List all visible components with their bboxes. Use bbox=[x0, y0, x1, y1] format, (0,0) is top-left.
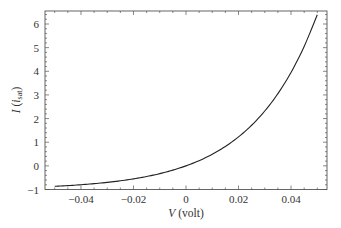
x-tick-label: 0.02 bbox=[229, 193, 248, 205]
data-line bbox=[55, 15, 318, 187]
y-tick-label: 6 bbox=[34, 18, 40, 30]
y-tick-label: 4 bbox=[34, 65, 40, 77]
y-axis-label: I (isat) bbox=[10, 87, 24, 115]
y-tick-label: 0 bbox=[34, 160, 40, 172]
y-tick-label: −1 bbox=[27, 184, 39, 196]
plot-border bbox=[45, 11, 327, 190]
x-axis-tick-labels: −0.04−0.0200.020.04 bbox=[68, 193, 301, 205]
x-axis-label: V (volt) bbox=[168, 207, 204, 220]
x-tick-label: 0.04 bbox=[281, 193, 301, 205]
y-tick-label: 5 bbox=[34, 42, 40, 54]
x-axis-label-unit: (volt) bbox=[175, 207, 204, 220]
y-axis-ticks bbox=[45, 15, 327, 190]
y-axis-tick-labels: −10123456 bbox=[27, 18, 39, 195]
x-axis-ticks bbox=[55, 11, 318, 190]
x-tick-label: −0.02 bbox=[121, 193, 146, 205]
chart: −0.04−0.0200.020.04 −10123456 V (volt) I… bbox=[0, 0, 341, 228]
y-axis-label-close: ) bbox=[10, 87, 23, 91]
y-tick-label: 3 bbox=[34, 89, 40, 101]
plot-frame bbox=[45, 11, 327, 190]
x-tick-label: 0 bbox=[183, 193, 189, 205]
y-tick-label: 1 bbox=[34, 136, 40, 148]
y-tick-label: 2 bbox=[34, 113, 40, 125]
x-tick-label: −0.04 bbox=[68, 193, 94, 205]
